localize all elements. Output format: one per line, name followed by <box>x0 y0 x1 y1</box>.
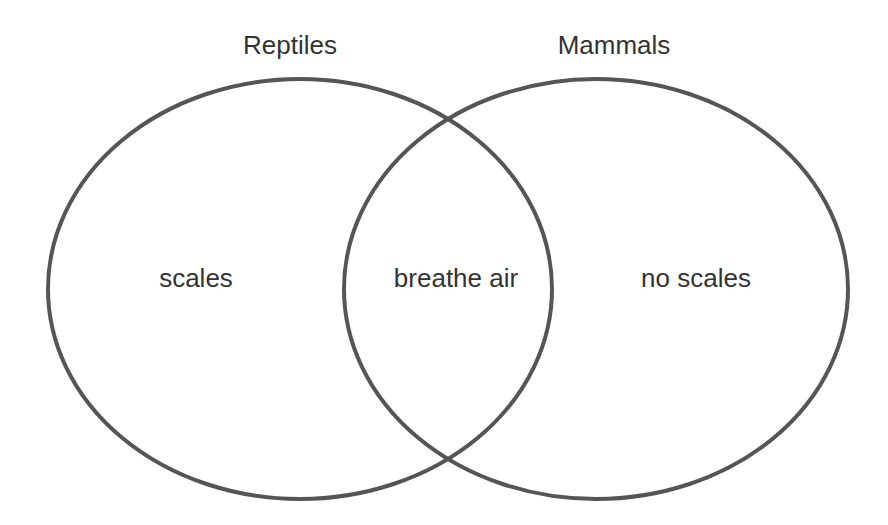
venn-diagram: Reptiles Mammals scales breathe air no s… <box>0 0 888 525</box>
mammals-only-label: no scales <box>641 263 751 293</box>
reptiles-only-label: scales <box>159 263 233 293</box>
mammals-set-title: Mammals <box>558 30 671 60</box>
intersection-label: breathe air <box>394 263 519 293</box>
reptiles-set-title: Reptiles <box>243 30 337 60</box>
